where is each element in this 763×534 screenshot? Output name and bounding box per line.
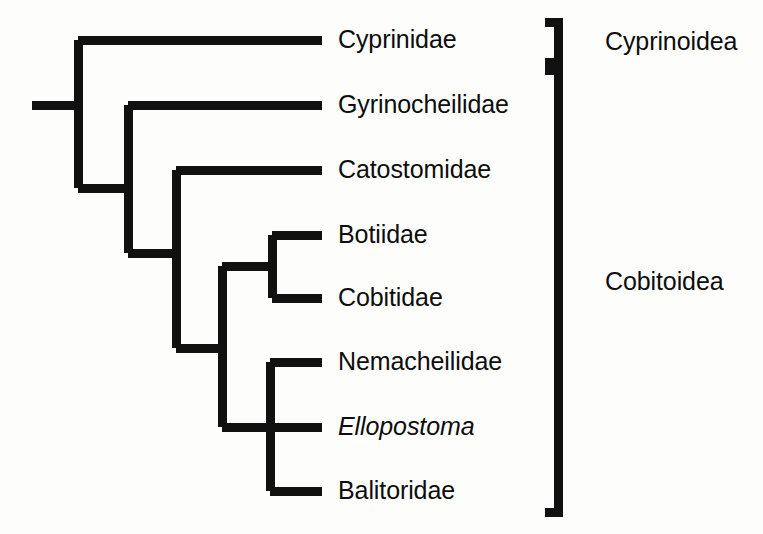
bracket-cobitoidea <box>545 70 558 512</box>
phylogeny-figure: Cyprinidae Gyrinocheilidae Catostomidae … <box>0 0 763 534</box>
clade-label-cobitoidea: Cobitoidea <box>605 269 724 294</box>
tip-label-cyprinidae: Cyprinidae <box>338 27 457 52</box>
tree-branch-lines <box>32 40 322 491</box>
clade-label-cyprinoidea: Cyprinoidea <box>605 29 737 54</box>
tip-label-catostomidae: Catostomidae <box>338 157 491 182</box>
tip-label-gyrinocheilidae: Gyrinocheilidae <box>338 92 509 117</box>
bracket-cyprinoidea <box>545 22 558 62</box>
tip-label-balitoridae: Balitoridae <box>338 478 455 503</box>
tip-label-nemacheilidae: Nemacheilidae <box>338 349 502 374</box>
tip-label-cobitidae: Cobitidae <box>338 285 443 310</box>
clade-brackets <box>545 22 558 512</box>
tip-label-ellopostoma: Ellopostoma <box>338 414 474 439</box>
tip-label-botiidae: Botiidae <box>338 222 428 247</box>
